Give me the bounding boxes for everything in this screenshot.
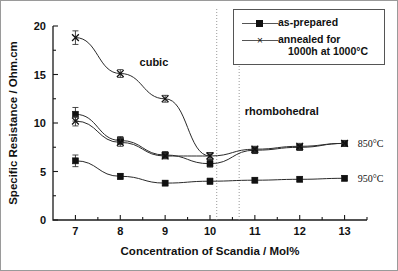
series-line — [75, 121, 344, 156]
annotation-850c: 850°C — [358, 138, 384, 149]
x-tick-label: 10 — [204, 225, 216, 237]
data-point-square — [207, 178, 213, 184]
data-point-square — [297, 176, 303, 182]
x-tick-label: 11 — [249, 225, 261, 237]
y-tick-label: 10 — [34, 117, 46, 129]
legend-label-as-prepared: as-prepared — [278, 16, 338, 28]
x-axis-title: Concentration of Scandia / Mol% — [121, 245, 300, 257]
legend-item-as-prepared: as-prepared — [242, 16, 378, 30]
y-tick-label: 5 — [40, 166, 46, 178]
chart-annotations: cubicrhombohedral850°C950°C — [140, 56, 384, 184]
y-axis-title: Specific Resistance / Ohm.cm — [7, 41, 19, 205]
legend-label-annealed-line1: annealed for — [278, 33, 340, 45]
chart-figure: 0510152078910111213Concentration of Scan… — [0, 0, 398, 271]
y-tick-label: 0 — [40, 214, 46, 226]
square-marker-icon — [242, 17, 278, 30]
annotation-cubic: cubic — [140, 56, 169, 68]
cross-marker-icon: × — [242, 34, 278, 47]
data-point-square — [162, 180, 168, 186]
x-tick-label: 12 — [294, 225, 306, 237]
data-point-square — [342, 175, 348, 181]
annotation-950c: 950°C — [358, 173, 384, 184]
annotation-rhombohedral: rhombohedral — [245, 105, 319, 117]
x-tick-label: 9 — [162, 225, 168, 237]
y-tick-label: 20 — [34, 20, 46, 32]
data-point-square — [207, 161, 213, 167]
x-tick-label: 8 — [117, 225, 123, 237]
data-point-square — [252, 177, 258, 183]
chart-legend: as-prepared × annealed for 1000h at 1000… — [233, 9, 385, 65]
legend-label-annealed-line2: 1000h at 1000°C — [278, 45, 368, 57]
x-tick-label: 7 — [72, 225, 78, 237]
x-tick-label: 13 — [338, 225, 350, 237]
data-point-square — [117, 173, 123, 179]
legend-label-annealed: annealed for 1000h at 1000°C — [278, 33, 368, 57]
legend-item-annealed: × annealed for 1000h at 1000°C — [242, 33, 378, 57]
y-tick-label: 15 — [34, 69, 46, 81]
data-point-square — [72, 158, 78, 164]
